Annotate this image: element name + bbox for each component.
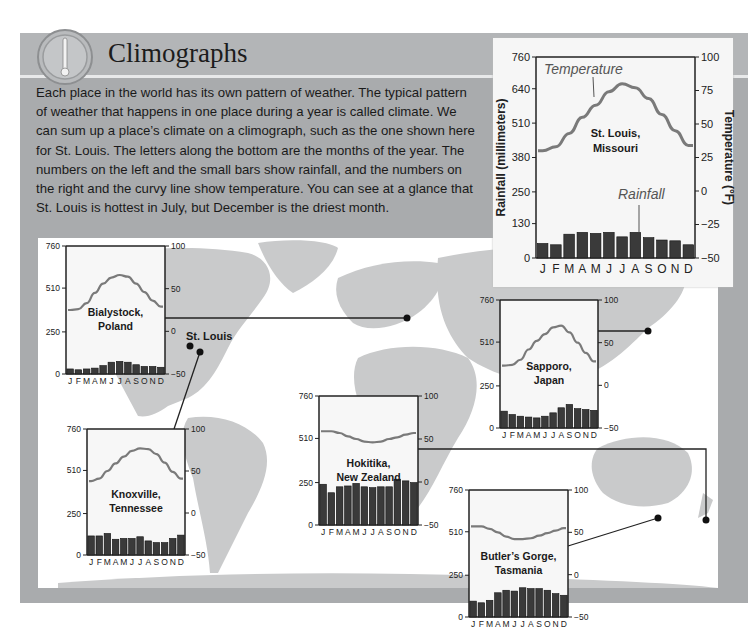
rainfall-bar	[112, 539, 119, 555]
climograph-bialystock: 0250510760−50050100JFMAMJJASONDBialystoc…	[46, 241, 186, 386]
rainfall-bar	[320, 484, 327, 525]
right-tick-label: 100	[574, 485, 588, 495]
rainfall-annotation: Rainfall	[618, 186, 666, 202]
rainfall-bar	[558, 408, 565, 428]
month-label: J	[321, 527, 325, 537]
rainfall-bar	[517, 416, 524, 428]
month-label: M	[120, 557, 127, 567]
month-label: M	[533, 430, 540, 440]
rainfall-bar	[83, 369, 90, 374]
month-label: J	[371, 527, 375, 537]
month-label: A	[125, 376, 131, 386]
rainfall-bar	[590, 233, 601, 258]
rainfall-bar	[369, 488, 376, 525]
left-tick-label: 0	[458, 612, 463, 622]
left-tick-label: 760	[299, 391, 313, 401]
rainfall-bar	[378, 487, 385, 525]
month-label: J	[512, 619, 516, 629]
rainfall-bar	[550, 413, 557, 428]
rainfall-bar	[96, 536, 103, 555]
month-label: D	[684, 262, 693, 276]
rainfall-bar	[501, 411, 508, 428]
rainfall-bar	[564, 234, 575, 258]
left-tick-label: 0	[308, 520, 313, 530]
left-tick-label: 760	[512, 51, 530, 63]
rainfall-bar	[104, 533, 111, 555]
temperature-annotation: Temperature	[544, 61, 623, 77]
left-tick-label: 380	[512, 151, 530, 163]
month-label: D	[158, 376, 164, 386]
month-label: O	[574, 430, 581, 440]
rainfall-bar	[108, 362, 115, 374]
rainfall-bar	[361, 487, 368, 525]
rainfall-bar	[683, 245, 694, 258]
rainfall-bar	[542, 416, 549, 428]
month-label: J	[521, 619, 525, 629]
month-label: S	[154, 557, 160, 567]
city-label: New Zealand	[336, 471, 400, 483]
city-label: Sapporo,	[526, 360, 572, 372]
rainfall-bar	[591, 410, 598, 428]
city-label: Knoxville,	[111, 488, 161, 500]
rainfall-bar	[486, 600, 493, 617]
left-tick-label: 250	[449, 570, 463, 580]
rainfall-bar	[478, 603, 485, 617]
rainfall-bar	[630, 232, 641, 258]
city-label: Tasmania	[495, 564, 543, 576]
right-tick-label: 0	[191, 508, 196, 518]
month-label: N	[170, 557, 176, 567]
rainfall-bar	[386, 487, 393, 525]
rainfall-bar	[604, 232, 615, 258]
month-label: J	[89, 557, 93, 567]
right-tick-label: 50	[191, 466, 201, 476]
month-label: J	[130, 557, 134, 567]
rainfall-bar	[536, 589, 543, 617]
month-label: J	[68, 376, 72, 386]
left-tick-label: 760	[480, 295, 494, 305]
right-tick-label: 25	[701, 151, 713, 163]
rainfall-bar	[345, 486, 352, 525]
right-tick-label: 50	[171, 284, 181, 294]
month-label: A	[578, 262, 586, 276]
right-tick-label: −50	[424, 520, 439, 530]
right-tick-label: 100	[191, 424, 205, 434]
rainfall-bar	[525, 417, 532, 428]
month-label: M	[503, 619, 510, 629]
left-tick-label: 0	[55, 369, 60, 379]
left-tick-label: 510	[449, 527, 463, 537]
month-label: J	[109, 376, 113, 386]
month-label: A	[378, 527, 384, 537]
rainfall-bar	[100, 366, 107, 374]
rainfall-bar	[503, 590, 510, 617]
right-tick-label: −50	[191, 550, 206, 560]
left-tick-label: 510	[46, 283, 60, 293]
rainfall-bar	[552, 594, 559, 617]
right-tick-label: 100	[604, 295, 618, 305]
rainfall-bar	[470, 601, 477, 617]
month-label: O	[161, 557, 168, 567]
left-tick-label: 510	[512, 117, 530, 129]
rainfall-bar	[411, 483, 418, 525]
rainfall-bar	[561, 595, 568, 617]
left-tick-label: 250	[299, 478, 313, 488]
month-label: J	[540, 262, 546, 276]
month-label: J	[543, 430, 547, 440]
right-tick-label: −50	[574, 612, 589, 622]
month-label: M	[100, 376, 107, 386]
left-tick-label: 510	[299, 433, 313, 443]
right-tick-label: 50	[604, 338, 614, 348]
left-tick-label: 760	[67, 424, 81, 434]
right-tick-label: 100	[171, 241, 185, 251]
rainfall-bar	[149, 366, 156, 374]
month-label: N	[403, 527, 409, 537]
month-label: N	[150, 376, 156, 386]
month-label: J	[606, 262, 612, 276]
month-label: N	[553, 619, 559, 629]
rainfall-bar	[153, 543, 160, 555]
month-label: A	[558, 430, 564, 440]
left-tick-label: 250	[67, 509, 81, 519]
left-tick-label: 0	[76, 550, 81, 560]
month-label: A	[631, 262, 639, 276]
climograph-hokitika: 0250510760−50050100JFMAMJJASONDHokitika,…	[299, 391, 439, 537]
month-label: M	[564, 262, 574, 276]
